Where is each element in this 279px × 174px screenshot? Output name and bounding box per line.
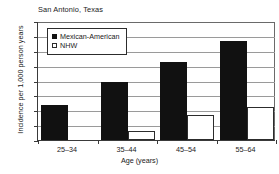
- legend-item-mexican-american: Mexican-American: [52, 32, 120, 41]
- bar-mexican-american: [41, 105, 68, 140]
- chart-figure: San Antonio, Texas Incidence per 1,000 p…: [0, 0, 279, 174]
- bar-mexican-american: [220, 41, 247, 140]
- legend-swatch-icon-nhw: [52, 43, 57, 48]
- y-tick-mark: [34, 37, 38, 38]
- x-tick-mark: [217, 140, 218, 144]
- x-tick-mark: [276, 140, 277, 144]
- y-tick-mark: [34, 52, 38, 53]
- x-tick-label: 35–44: [117, 145, 137, 154]
- legend-swatch-icon-mexican-american: [52, 34, 57, 39]
- chart-title: San Antonio, Texas: [38, 5, 103, 14]
- x-tick-mark: [157, 140, 158, 144]
- y-tick-mark: [34, 126, 38, 127]
- legend-label: NHW: [60, 41, 77, 50]
- y-tick-mark: [34, 111, 38, 112]
- y-axis-label: Incidence per 1,000 person years: [16, 16, 25, 144]
- bar-mexican-american: [101, 82, 128, 140]
- x-tick-mark: [98, 140, 99, 144]
- bar-nhw: [128, 131, 155, 140]
- bar-nhw: [187, 115, 214, 140]
- y-tick-mark: [34, 96, 38, 97]
- legend-label: Mexican-American: [60, 32, 120, 41]
- bar-nhw: [247, 107, 274, 140]
- x-axis-label: Age (years): [0, 156, 279, 165]
- y-tick-mark: [34, 22, 38, 23]
- gridline: [38, 22, 275, 23]
- bar-mexican-american: [160, 62, 187, 140]
- legend-item-nhw: NHW: [52, 41, 120, 50]
- y-tick-mark: [34, 67, 38, 68]
- y-tick-mark: [34, 82, 38, 83]
- x-tick-label: 55–64: [236, 145, 256, 154]
- x-tick-label: 45–54: [176, 145, 196, 154]
- chart-legend: Mexican-American NHW: [47, 28, 127, 55]
- x-tick-label: 25–34: [57, 145, 77, 154]
- x-tick-mark: [38, 140, 39, 144]
